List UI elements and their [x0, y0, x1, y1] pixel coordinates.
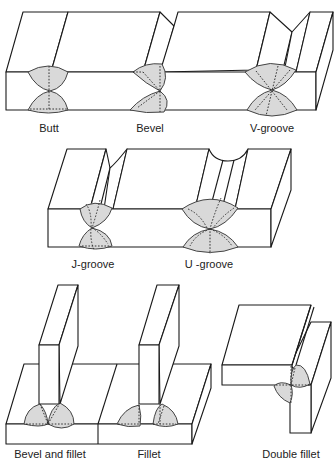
label-bevel-and-fillet: Bevel and fillet [14, 448, 86, 460]
double-fillet-plates [222, 305, 331, 433]
middle-plate-top [113, 149, 209, 209]
label-butt: Butt [39, 122, 59, 134]
double-fillet-horizontal-front [222, 365, 292, 385]
label-u-groove: U -groove [185, 258, 233, 270]
bottom-left-base-plate [6, 364, 211, 444]
diagram-canvas [0, 0, 336, 461]
label-bevel: Bevel [136, 122, 164, 134]
label-v-groove: V-groove [250, 122, 294, 134]
weld-joint-diagram: Butt Bevel V-groove J-groove U -groove B… [0, 0, 336, 461]
bevel-right-plate-top [160, 12, 270, 72]
label-double-fillet: Double fillet [262, 448, 319, 460]
label-j-groove: J-groove [72, 258, 115, 270]
double-fillet-vertical-front [290, 385, 311, 433]
middle-row-plates [48, 149, 291, 247]
butt-right-plate-top [51, 12, 160, 72]
label-fillet: Fillet [137, 448, 160, 460]
base-plate-front [6, 424, 192, 444]
